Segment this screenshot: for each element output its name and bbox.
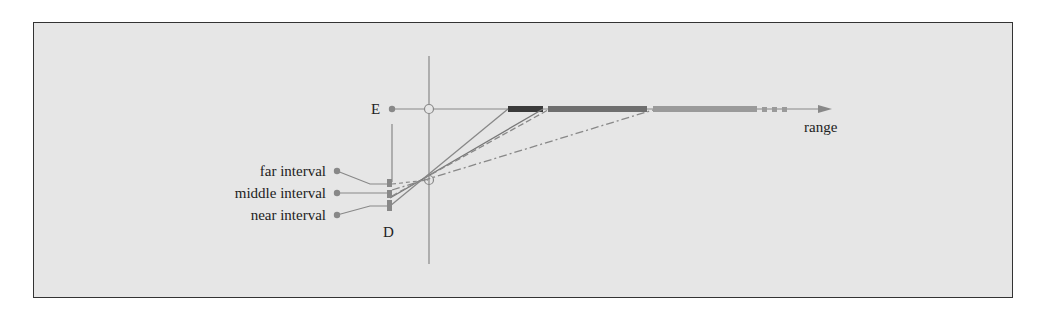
far-range-segment: [653, 106, 757, 112]
middle-dot: [334, 190, 340, 196]
near-leader: [337, 206, 388, 215]
far-range-tick: [772, 107, 777, 112]
e-dot: [389, 106, 395, 112]
label-near-interval: near interval: [251, 207, 326, 223]
range-interval-diagram: E D range far interval middle interval n…: [0, 0, 1048, 317]
label-middle-interval: middle interval: [235, 185, 326, 201]
far-ray-stub: [392, 180, 428, 184]
label-d: D: [383, 224, 394, 240]
range-arrow-icon: [818, 105, 832, 113]
middle-ray-b: [392, 110, 548, 196]
label-range: range: [804, 119, 838, 135]
far-leader: [337, 171, 388, 184]
near-ray: [390, 109, 508, 206]
middle-interval-marker: [387, 190, 392, 198]
far-ray: [392, 110, 653, 190]
far-range-tick: [762, 107, 767, 112]
far-dot: [334, 168, 340, 174]
label-e: E: [371, 101, 380, 117]
far-range-tick: [782, 107, 787, 112]
axis-intersection-circle: [425, 105, 434, 114]
near-dot: [334, 212, 340, 218]
near-range-segment: [508, 106, 543, 112]
label-far-interval: far interval: [260, 163, 326, 179]
middle-range-segment: [548, 106, 647, 112]
far-interval-marker: [387, 179, 392, 187]
